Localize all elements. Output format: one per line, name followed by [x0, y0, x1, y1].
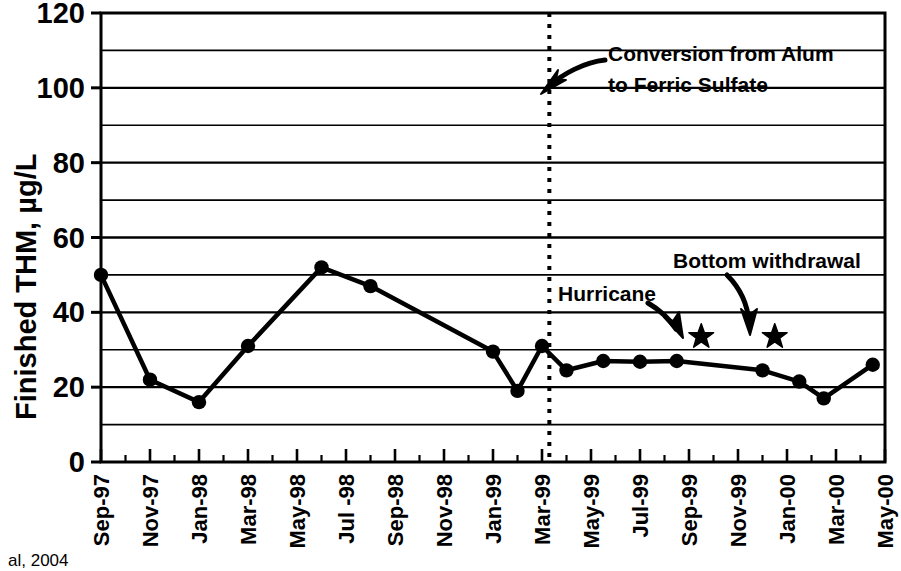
- data-point: [143, 372, 157, 386]
- x-tick-label: Jan-98: [187, 474, 212, 544]
- data-point: [559, 363, 573, 377]
- hurricane-annotation-label: Hurricane: [558, 282, 656, 305]
- y-tick-label: 0: [69, 446, 85, 478]
- data-point: [486, 344, 500, 358]
- data-point: [241, 339, 255, 353]
- conversion-annotation-line1: Conversion from Alum: [608, 42, 834, 65]
- data-point: [633, 355, 647, 369]
- y-tick-label: 80: [53, 147, 85, 179]
- x-tick-label: Mar-00: [824, 474, 849, 545]
- x-tick-label: Mar-98: [236, 474, 261, 545]
- x-tick-label: Sep-99: [677, 474, 702, 546]
- y-tick-label: 20: [53, 371, 85, 403]
- data-point: [510, 384, 524, 398]
- y-tick-label: 40: [53, 296, 85, 328]
- x-tick-label: Jan-00: [775, 474, 800, 544]
- y-axis-title: Finished THM, µg/L: [10, 154, 42, 420]
- x-tick-label: Jan-99: [481, 474, 506, 544]
- x-axis-labels: Sep-97Nov-97Jan-98Mar-98May-98Jul -98Sep…: [89, 474, 898, 549]
- x-tick-label: Sep-98: [383, 474, 408, 546]
- credit-fragment: al, 2004: [8, 551, 69, 570]
- x-tick-label: Mar-99: [530, 474, 555, 545]
- x-tick-label: May-00: [873, 474, 898, 549]
- data-point: [192, 395, 206, 409]
- data-point: [866, 358, 880, 372]
- data-point: [535, 339, 549, 353]
- x-tick-label: Nov-99: [726, 474, 751, 547]
- data-point: [596, 354, 610, 368]
- x-tick-label: Jul-99: [628, 474, 653, 538]
- data-point: [755, 363, 769, 377]
- data-point: [94, 268, 108, 282]
- data-point: [670, 354, 684, 368]
- y-tick-label: 120: [37, 0, 85, 29]
- chart-figure: 020406080100120 Sep-97Nov-97Jan-98Mar-98…: [0, 0, 901, 571]
- x-tick-label: May-99: [579, 474, 604, 549]
- conversion-annotation-line2: to Ferric Sulfate: [608, 73, 768, 96]
- x-tick-label: Sep-97: [89, 474, 114, 546]
- y-tick-label: 100: [37, 72, 85, 104]
- thm-line-chart: 020406080100120 Sep-97Nov-97Jan-98Mar-98…: [0, 0, 901, 571]
- data-point: [792, 374, 806, 388]
- data-point: [363, 279, 377, 293]
- x-tick-label: Jul -98: [334, 474, 359, 544]
- y-tick-label: 60: [53, 222, 85, 254]
- y-axis: 020406080100120: [37, 0, 101, 478]
- data-point: [817, 391, 831, 405]
- x-tick-label: Nov-97: [138, 474, 163, 547]
- x-tick-label: May-98: [285, 474, 310, 549]
- bottom-withdrawal-annotation-label: Bottom withdrawal: [673, 249, 861, 272]
- x-tick-label: Nov-98: [432, 474, 457, 547]
- data-point: [314, 260, 328, 274]
